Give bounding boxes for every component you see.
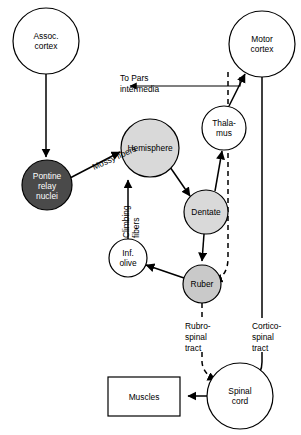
node-inf-olive[interactable]: Inf. olive (109, 239, 147, 277)
node-assoc-cortex[interactable]: Assoc. cortex (13, 8, 79, 74)
node-ruber[interactable]: Ruber (183, 265, 221, 303)
to-pars-intermedia-label-line1: To Pars (120, 73, 148, 83)
climbing-fibers-label-line1: Climbing (121, 205, 131, 238)
corticospinal-tract-label-line1: Cortico- (252, 321, 282, 331)
pontine-label-line2: relay (38, 181, 57, 191)
node-muscles[interactable]: Muscles (108, 377, 180, 416)
muscles-label: Muscles (129, 392, 160, 402)
corticospinal-tract-label-line2: spinal (252, 332, 274, 342)
to-pars-intermedia-label-line2: intermedia (120, 84, 159, 94)
rubrospinal-tract-label-line3: tract (185, 343, 202, 353)
thalamus-label-line2: mus (216, 128, 232, 138)
spinal-cord-label-line1: Spinal (228, 386, 251, 396)
assoc-cortex-label-line1: Assoc. (33, 31, 58, 41)
climbing-fibers-label-line2: fibers (131, 218, 141, 238)
spinal-cord-label-line2: cord (232, 396, 249, 406)
motor-cortex-label-line1: Motor (251, 34, 273, 44)
assoc-cortex-label-line2: cortex (35, 41, 59, 51)
rubrospinal-tract-label-line2: spinal (185, 332, 207, 342)
node-pontine-relay-nuclei[interactable]: Pontine relay nuclei (22, 160, 72, 210)
corticospinal-tract-label-line3: tract (252, 343, 269, 353)
thalamus-label-line1: Thala- (212, 118, 236, 128)
node-dentate[interactable]: Dentate (184, 190, 228, 234)
dentate-label: Dentate (191, 207, 221, 217)
node-spinal-cord[interactable]: Spinal cord (207, 363, 273, 429)
ruber-label: Ruber (191, 279, 214, 289)
node-thalamus[interactable]: Thala- mus (202, 106, 246, 150)
pontine-label-line3: nuclei (36, 191, 58, 201)
cerebellar-circuit-diagram: Assoc. cortex Motor cortex Pontine relay… (0, 0, 301, 435)
inf-olive-label-line2: olive (119, 258, 137, 268)
node-motor-cortex[interactable]: Motor cortex (229, 11, 295, 77)
motor-cortex-label-line2: cortex (251, 44, 275, 54)
rubrospinal-tract-label-line1: Rubro- (185, 321, 211, 331)
pontine-label-line1: Pontine (33, 171, 62, 181)
inf-olive-label-line1: Inf. (122, 248, 134, 258)
